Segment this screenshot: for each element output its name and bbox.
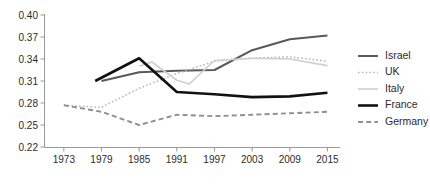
x-tick-label: 2009 — [279, 154, 302, 165]
y-tick-label: 0.31 — [19, 76, 39, 87]
y-tick-label: 0.40 — [19, 10, 39, 21]
x-tick-label: 1979 — [90, 154, 113, 165]
x-tick-label: 2003 — [241, 154, 264, 165]
y-tick-label: 0.22 — [19, 142, 39, 153]
y-tick-label: 0.34 — [19, 54, 39, 65]
line-chart: 0.400.370.340.310.280.250.22 19731979198… — [0, 0, 430, 184]
legend-label-israel: Israel — [385, 49, 411, 61]
x-tick-label: 1997 — [203, 154, 226, 165]
legend-label-italy: Italy — [385, 82, 405, 94]
x-tick-label: 1991 — [166, 154, 189, 165]
x-tick-label: 1985 — [128, 154, 151, 165]
legend-label-france: France — [385, 98, 418, 110]
x-tick-label: 1973 — [53, 154, 76, 165]
series-line-israel — [101, 36, 327, 81]
y-tick-label: 0.37 — [19, 32, 39, 43]
y-axis-ticks — [41, 15, 45, 147]
legend-label-germany: Germany — [385, 115, 429, 127]
series-line-germany — [64, 105, 328, 125]
x-axis-ticks — [64, 148, 328, 152]
series-lines — [64, 36, 328, 125]
legend-label-uk: UK — [385, 65, 400, 77]
y-axis-tick-labels: 0.400.370.340.310.280.250.22 — [19, 10, 39, 153]
x-tick-label: 2015 — [316, 154, 339, 165]
series-line-uk — [64, 57, 328, 108]
y-tick-label: 0.25 — [19, 120, 39, 131]
x-axis-tick-labels: 19731979198519911997200320092015 — [53, 154, 339, 165]
y-tick-label: 0.28 — [19, 98, 39, 109]
legend: IsraelUKItalyFranceGermany — [358, 49, 429, 127]
chart-canvas: 0.400.370.340.310.280.250.22 19731979198… — [0, 0, 430, 184]
